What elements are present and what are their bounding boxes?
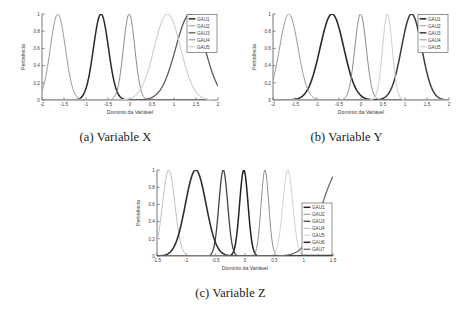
x-tick-label: 1.5 bbox=[330, 258, 337, 263]
y-tick-label: 0.2 bbox=[33, 81, 40, 86]
figure-container: -2-1.5-1-0.500.511.5200.20.40.60.81Domín… bbox=[0, 0, 462, 311]
legend-label-gau3: GAU3 bbox=[197, 31, 210, 36]
y-tick-label: 0.8 bbox=[148, 185, 155, 190]
x-tick-label: -1.5 bbox=[60, 102, 68, 107]
legend-label-gau4: GAU4 bbox=[428, 38, 441, 43]
caption-variable-z: (c)Variable Z bbox=[115, 286, 346, 301]
y-tick-label: 0.6 bbox=[264, 46, 271, 51]
x-tick-label: -1 bbox=[315, 102, 320, 107]
x-tick-label: 0 bbox=[244, 258, 247, 263]
y-axis-label: Pertinência bbox=[20, 44, 26, 70]
plot-area-variable-y: -2-1.5-1-0.500.511.5200.20.40.60.81Domín… bbox=[231, 2, 462, 132]
legend-label-gau4: GAU4 bbox=[197, 38, 210, 43]
x-tick-label: 1 bbox=[404, 102, 407, 107]
caption-label: Variable Y bbox=[328, 130, 382, 144]
legend-label-gau3: GAU3 bbox=[312, 219, 325, 224]
caption-label: Variable Z bbox=[212, 286, 265, 300]
y-tick-label: 0.4 bbox=[264, 63, 271, 68]
x-tick-label: -1 bbox=[184, 258, 189, 263]
x-tick-label: 0.5 bbox=[149, 102, 156, 107]
legend-label-gau1: GAU1 bbox=[197, 17, 210, 22]
chart-variable-y: -2-1.5-1-0.500.511.5200.20.40.60.81Domín… bbox=[231, 2, 462, 132]
y-tick-label: 0.6 bbox=[148, 202, 155, 207]
legend-label-gau2: GAU2 bbox=[428, 24, 441, 29]
y-axis-label: Pertinência bbox=[251, 44, 257, 70]
legend-label-gau5: GAU5 bbox=[428, 45, 441, 50]
caption-tag: (b) bbox=[310, 130, 325, 144]
x-axis-label: Domínio da Variável bbox=[338, 109, 384, 115]
legend-label-gau5: GAU5 bbox=[197, 45, 210, 50]
x-tick-label: 0 bbox=[360, 102, 363, 107]
legend-label-gau4: GAU4 bbox=[312, 226, 325, 231]
x-tick-label: -2 bbox=[271, 102, 276, 107]
y-tick-label: 1 bbox=[268, 12, 271, 17]
x-tick-label: 0 bbox=[129, 102, 132, 107]
x-tick-label: 1.5 bbox=[193, 102, 200, 107]
x-tick-label: -0.5 bbox=[104, 102, 112, 107]
x-tick-label: 0.5 bbox=[271, 258, 278, 263]
caption-tag: (a) bbox=[80, 130, 94, 144]
x-tick-label: 1 bbox=[173, 102, 176, 107]
chart-variable-z: -1.5-1-0.500.511.500.20.40.60.81Domínio … bbox=[115, 158, 346, 288]
y-tick-label: 0 bbox=[37, 98, 40, 103]
plot-area-variable-x: -2-1.5-1-0.500.511.5200.20.40.60.81Domín… bbox=[0, 2, 231, 132]
legend-label-gau1: GAU1 bbox=[428, 17, 441, 22]
chart-variable-x: -2-1.5-1-0.500.511.5200.20.40.60.81Domín… bbox=[0, 2, 231, 132]
legend-label-gau7: GAU7 bbox=[312, 247, 325, 252]
x-tick-label: 2 bbox=[448, 102, 451, 107]
legend: GAU1GAU2GAU3GAU4GAU5 bbox=[187, 15, 217, 53]
y-tick-label: 0.6 bbox=[33, 46, 40, 51]
x-tick-label: -2 bbox=[40, 102, 45, 107]
x-tick-label: 2 bbox=[217, 102, 220, 107]
legend-label-gau5: GAU5 bbox=[312, 233, 325, 238]
y-tick-label: 0.4 bbox=[33, 63, 40, 68]
legend-label-gau1: GAU1 bbox=[312, 205, 325, 210]
legend: GAU1GAU2GAU3GAU4GAU5GAU6GAU7 bbox=[302, 203, 332, 255]
plot-area-variable-z: -1.5-1-0.500.511.500.20.40.60.81Domínio … bbox=[115, 158, 346, 288]
y-tick-label: 0.4 bbox=[148, 219, 155, 224]
subfigure-variable-x: -2-1.5-1-0.500.511.5200.20.40.60.81Domín… bbox=[0, 2, 231, 154]
caption-tag: (c) bbox=[195, 286, 209, 300]
y-tick-label: 0.8 bbox=[33, 29, 40, 34]
caption-variable-x: (a)Variable X bbox=[0, 130, 231, 145]
x-tick-label: -1 bbox=[84, 102, 89, 107]
legend-label-gau2: GAU2 bbox=[197, 24, 210, 29]
caption-label: Variable X bbox=[97, 130, 152, 144]
y-tick-label: 0.2 bbox=[148, 237, 155, 242]
subfigure-variable-y: -2-1.5-1-0.500.511.5200.20.40.60.81Domín… bbox=[231, 2, 462, 154]
y-tick-label: 1 bbox=[37, 12, 40, 17]
x-axis-label: Domínio da Variável bbox=[222, 265, 268, 271]
legend-label-gau2: GAU2 bbox=[312, 212, 325, 217]
y-axis-label: Pertinência bbox=[135, 200, 141, 226]
x-tick-label: 0.5 bbox=[380, 102, 387, 107]
y-tick-label: 0 bbox=[268, 98, 271, 103]
y-tick-label: 1 bbox=[152, 168, 155, 173]
x-tick-label: 1.5 bbox=[424, 102, 431, 107]
y-tick-label: 0.8 bbox=[264, 29, 271, 34]
x-tick-label: -0.5 bbox=[212, 258, 220, 263]
y-tick-label: 0.2 bbox=[264, 81, 271, 86]
x-tick-label: -1.5 bbox=[291, 102, 299, 107]
x-axis-label: Domínio da Variável bbox=[107, 109, 153, 115]
x-tick-label: -1.5 bbox=[153, 258, 161, 263]
legend-label-gau6: GAU6 bbox=[312, 240, 325, 245]
x-tick-label: -0.5 bbox=[335, 102, 343, 107]
y-tick-label: 0 bbox=[152, 254, 155, 259]
legend-label-gau3: GAU3 bbox=[428, 31, 441, 36]
caption-variable-y: (b)Variable Y bbox=[231, 130, 462, 145]
x-tick-label: 1 bbox=[302, 258, 305, 263]
subfigure-variable-z: -1.5-1-0.500.511.500.20.40.60.81Domínio … bbox=[115, 158, 346, 310]
legend: GAU1GAU2GAU3GAU4GAU5 bbox=[418, 15, 448, 53]
